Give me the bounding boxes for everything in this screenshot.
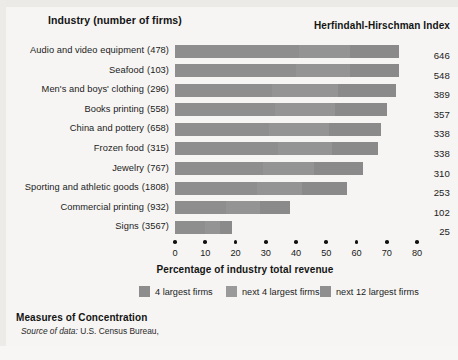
row-industry-label: Jewelry(767)	[112, 163, 169, 173]
hhi-column-title: Herfindahl-Hirschman Index	[314, 20, 450, 31]
x-axis-title-text: Percentage of industry total revenue	[157, 264, 334, 275]
bar-rows: Audio and video equipment(478)646Seafood…	[0, 42, 458, 238]
bar-segment	[220, 221, 232, 234]
bar-track	[175, 84, 420, 97]
chart-row: Men's and boys' clothing(296)389	[0, 81, 458, 101]
bar-segment	[296, 64, 350, 77]
stacked-bar	[175, 123, 381, 136]
bar-segment	[175, 64, 296, 77]
row-firm-count: (296)	[147, 84, 169, 94]
row-industry-name: Sporting and athletic goods	[25, 182, 139, 192]
row-hhi-value: 646	[416, 50, 450, 61]
bar-track	[175, 123, 420, 136]
row-industry-name: Signs	[115, 221, 139, 231]
row-industry-name: Frozen food	[94, 143, 144, 153]
bar-segment	[263, 162, 314, 175]
x-axis-tick	[355, 240, 359, 244]
chart-header: Industry (number of firms) Herfindahl-Hi…	[0, 14, 458, 36]
x-axis: 01020304050607080	[0, 240, 458, 266]
row-hhi-value: 253	[416, 187, 450, 198]
chart-row: Signs(3567)25	[0, 218, 458, 238]
chart-row: China and pottery(658)338	[0, 120, 458, 140]
legend-item-4-largest: 4 largest firms	[139, 286, 213, 297]
stacked-bar	[175, 103, 387, 116]
legend-item-next-12-largest: next 12 largest firms	[320, 286, 419, 297]
bar-segment	[272, 84, 339, 97]
row-industry-label: Seafood(103)	[109, 65, 169, 75]
bar-segment	[329, 123, 380, 136]
row-industry-name: Men's and boys' clothing	[42, 84, 144, 94]
bar-segment	[175, 123, 269, 136]
row-hhi-value: 548	[416, 70, 450, 81]
bar-segment	[175, 162, 263, 175]
row-hhi-value: 102	[416, 207, 450, 218]
x-axis-tick	[294, 240, 298, 244]
chart-row: Books printing(558)357	[0, 101, 458, 121]
stacked-bar	[175, 182, 347, 195]
row-hhi-value: 357	[416, 109, 450, 120]
bar-segment	[314, 162, 362, 175]
stacked-bar	[175, 142, 378, 155]
bar-segment	[335, 103, 386, 116]
bar-segment	[338, 84, 395, 97]
chart-legend: 4 largest firms next 4 largest firms nex…	[0, 286, 458, 302]
stacked-bar	[175, 201, 290, 214]
row-industry-name: Books printing	[84, 104, 144, 114]
row-firm-count: (767)	[147, 163, 169, 173]
row-firm-count: (3567)	[142, 221, 169, 231]
legend-swatch-4-largest-icon	[139, 286, 150, 297]
row-firm-count: (315)	[147, 143, 169, 153]
bar-segment	[175, 142, 278, 155]
row-firm-count: (932)	[147, 202, 169, 212]
bar-segment	[175, 201, 226, 214]
bar-segment	[350, 64, 398, 77]
bar-segment	[275, 103, 336, 116]
legend-swatch-next-4-largest-icon	[226, 286, 237, 297]
row-industry-label: China and pottery(658)	[70, 123, 169, 133]
bar-segment	[269, 123, 330, 136]
bar-segment	[278, 142, 332, 155]
x-axis-tick-label: 40	[291, 248, 301, 258]
x-axis-tick	[234, 240, 238, 244]
x-axis-tick	[203, 240, 207, 244]
figure-panel: Industry (number of firms) Herfindahl-Hi…	[0, 0, 458, 360]
x-axis-title: Percentage of industry total revenue	[0, 264, 458, 275]
figure-footer: Measures of Concentration Source of data…	[16, 312, 446, 336]
row-industry-label: Frozen food(315)	[94, 143, 169, 153]
x-axis-tick-label: 80	[412, 248, 422, 258]
row-hhi-value: 338	[416, 128, 450, 139]
bar-segment	[175, 84, 272, 97]
stacked-bar	[175, 64, 399, 77]
stacked-bar	[175, 162, 363, 175]
bar-track	[175, 162, 420, 175]
source-label: Source of data:	[21, 326, 78, 336]
chart-row: Commercial printing(932)102	[0, 199, 458, 219]
row-firm-count: (103)	[147, 65, 169, 75]
row-industry-name: Jewelry	[112, 163, 144, 173]
bar-track	[175, 221, 420, 234]
x-axis-tick-label: 60	[351, 248, 361, 258]
row-firm-count: (658)	[147, 123, 169, 133]
bar-track	[175, 201, 420, 214]
row-industry-label: Audio and video equipment(478)	[30, 45, 169, 55]
row-hhi-value: 338	[416, 148, 450, 159]
x-axis-tick	[173, 240, 177, 244]
bar-segment	[350, 45, 398, 58]
x-axis-tick-label: 70	[382, 248, 392, 258]
stacked-bar	[175, 45, 399, 58]
bar-segment	[257, 182, 302, 195]
row-hhi-value: 25	[416, 226, 450, 237]
x-axis-tick	[415, 240, 419, 244]
bar-segment	[175, 221, 205, 234]
bar-segment	[175, 182, 257, 195]
stacked-bar	[175, 221, 232, 234]
bar-track	[175, 142, 420, 155]
figure-source-line: Source of data: U.S. Census Bureau,	[21, 326, 446, 336]
legend-item-next-4-largest: next 4 largest firms	[226, 286, 320, 297]
bar-segment	[205, 221, 220, 234]
row-industry-label: Signs(3567)	[115, 221, 169, 231]
legend-label-next-4-largest: next 4 largest firms	[242, 287, 320, 297]
legend-label-4-largest: 4 largest firms	[155, 287, 213, 297]
row-firm-count: (478)	[147, 45, 169, 55]
bar-segment	[299, 45, 350, 58]
